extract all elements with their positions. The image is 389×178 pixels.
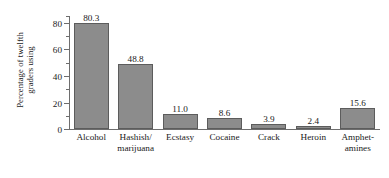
bar-value-label: 8.6 bbox=[219, 108, 230, 118]
x-category-label-line: Ecstasy bbox=[158, 132, 202, 143]
y-axis-title-line-1: Percentage of twelfth bbox=[15, 32, 25, 108]
plot-area: 020406080 80.348.811.08.63.92.415.6 bbox=[69, 16, 380, 130]
y-tick-major bbox=[64, 76, 69, 77]
x-category-label-line: Heroin bbox=[291, 132, 335, 143]
y-tick-minor bbox=[66, 63, 69, 64]
y-axis-title-line-2: graders using bbox=[25, 32, 35, 108]
y-axis-title-text: Percentage of twelfth graders using bbox=[15, 32, 36, 108]
x-category-label-line: Amphet- bbox=[336, 132, 380, 143]
bar-value-label: 80.3 bbox=[83, 13, 99, 23]
bar: 15.6 bbox=[340, 108, 375, 129]
y-tick-major bbox=[64, 129, 69, 130]
bar: 80.3 bbox=[74, 23, 109, 129]
y-tick-minor bbox=[66, 89, 69, 90]
x-category-label-line: Hashish/ bbox=[113, 132, 157, 143]
y-axis-line bbox=[69, 16, 70, 130]
bar: 3.9 bbox=[251, 124, 286, 129]
bar: 8.6 bbox=[207, 118, 242, 129]
bar: 11.0 bbox=[163, 114, 198, 129]
x-category-label: Crack bbox=[247, 132, 291, 143]
bar-value-label: 3.9 bbox=[263, 114, 274, 124]
x-axis-line bbox=[69, 129, 380, 130]
x-category-label: Heroin bbox=[291, 132, 335, 143]
x-category-label-line: Alcohol bbox=[69, 132, 113, 143]
bar: 48.8 bbox=[118, 64, 153, 129]
bar-value-label: 15.6 bbox=[350, 98, 366, 108]
y-tick-minor bbox=[66, 116, 69, 117]
bar-chart: Percentage of twelfth graders using 0204… bbox=[0, 0, 389, 178]
bar: 2.4 bbox=[296, 126, 331, 129]
y-tick-label: 60 bbox=[53, 45, 62, 55]
x-category-label-line: Cocaine bbox=[202, 132, 246, 143]
y-tick-label: 0 bbox=[57, 125, 62, 135]
y-tick-minor bbox=[66, 36, 69, 37]
y-tick-label: 80 bbox=[53, 19, 62, 29]
y-tick-label: 20 bbox=[53, 99, 62, 109]
x-category-label-line: amines bbox=[336, 143, 380, 154]
x-category-label: Alcohol bbox=[69, 132, 113, 143]
bar-value-label: 48.8 bbox=[128, 54, 144, 64]
y-tick-major bbox=[64, 103, 69, 104]
x-category-label: Amphet-amines bbox=[336, 132, 380, 154]
x-category-label-line: Crack bbox=[247, 132, 291, 143]
y-tick-minor bbox=[66, 16, 69, 17]
y-tick-major bbox=[64, 23, 69, 24]
bar-value-label: 2.4 bbox=[308, 116, 319, 126]
y-tick-major bbox=[64, 49, 69, 50]
y-axis-title: Percentage of twelfth graders using bbox=[10, 6, 40, 134]
y-tick-label: 40 bbox=[53, 72, 62, 82]
x-category-label-line: marijuana bbox=[113, 143, 157, 154]
x-category-label: Hashish/marijuana bbox=[113, 132, 157, 154]
bar-value-label: 11.0 bbox=[172, 104, 188, 114]
x-category-label: Ecstasy bbox=[158, 132, 202, 143]
x-category-label: Cocaine bbox=[202, 132, 246, 143]
